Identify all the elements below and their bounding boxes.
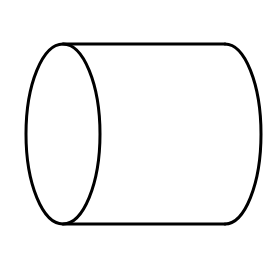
cylinder-figure bbox=[0, 0, 280, 277]
cylinder-back-arc bbox=[225, 44, 261, 224]
diagram-canvas bbox=[0, 0, 280, 277]
cylinder-front-face bbox=[26, 44, 100, 224]
